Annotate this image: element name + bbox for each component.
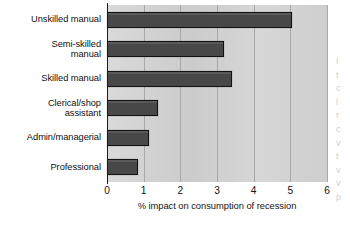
bar bbox=[107, 130, 149, 146]
tick-label-1: 1 bbox=[134, 185, 154, 197]
page-bleed-text: Itclrcvtvvp bbox=[336, 55, 350, 220]
value-axis-title: % impact on consumption of recession bbox=[107, 200, 327, 211]
category-label: Skilled manual bbox=[0, 73, 101, 84]
gridline-2 bbox=[180, 5, 181, 182]
bar-highlight bbox=[108, 13, 291, 15]
category-label: Professional bbox=[0, 162, 101, 173]
bar bbox=[107, 159, 138, 175]
bar-highlight bbox=[108, 160, 137, 162]
bleed-text-line: r bbox=[336, 109, 350, 123]
category-label-line: manual bbox=[0, 49, 101, 60]
category-label: Semi-skilledmanual bbox=[0, 39, 101, 60]
bleed-text-line: v bbox=[336, 137, 350, 151]
bleed-text-line: v bbox=[336, 164, 350, 178]
category-label: Unskilled manual bbox=[0, 14, 101, 25]
bar-highlight bbox=[108, 101, 157, 103]
bleed-text-line: t bbox=[336, 69, 350, 83]
category-label-line: Skilled manual bbox=[0, 73, 101, 84]
tick-label-2: 2 bbox=[170, 185, 190, 197]
bleed-text-line: p bbox=[336, 191, 350, 205]
bar bbox=[107, 100, 158, 116]
bleed-text-line: l bbox=[336, 96, 350, 110]
tick-label-3: 3 bbox=[207, 185, 227, 197]
bar-highlight bbox=[108, 42, 223, 44]
gridline-6 bbox=[327, 5, 328, 182]
bar bbox=[107, 71, 232, 87]
category-label-line: assistant bbox=[0, 108, 101, 119]
category-label-line: Unskilled manual bbox=[0, 14, 101, 25]
tick-label-6: 6 bbox=[317, 185, 337, 197]
category-label: Clerical/shopassistant bbox=[0, 98, 101, 119]
value-axis-line bbox=[107, 3, 108, 184]
category-label-line: Admin/managerial bbox=[0, 132, 101, 143]
category-label-line: Semi-skilled bbox=[0, 39, 101, 50]
category-label-line: Professional bbox=[0, 162, 101, 173]
bar-highlight bbox=[108, 72, 231, 74]
bar-highlight bbox=[108, 131, 148, 133]
category-axis-labels: Unskilled manualSemi-skilledmanualSkille… bbox=[0, 5, 104, 182]
category-label-line: Clerical/shop bbox=[0, 98, 101, 109]
gridline-5 bbox=[290, 5, 291, 182]
gridline-4 bbox=[254, 5, 255, 182]
bleed-text-line: I bbox=[336, 55, 350, 69]
bar-chart-figure: Unskilled manualSemi-skilledmanualSkille… bbox=[0, 0, 350, 228]
bleed-text-line: c bbox=[336, 82, 350, 96]
gridline-1 bbox=[144, 5, 145, 182]
plot-area bbox=[107, 5, 327, 182]
bleed-text-line: c bbox=[336, 123, 350, 137]
gridline-3 bbox=[217, 5, 218, 182]
bar bbox=[107, 41, 224, 57]
bar bbox=[107, 12, 292, 28]
category-label: Admin/managerial bbox=[0, 132, 101, 143]
tick-label-5: 5 bbox=[280, 185, 300, 197]
bleed-text-line: t bbox=[336, 150, 350, 164]
tick-label-4: 4 bbox=[244, 185, 264, 197]
bleed-text-line: v bbox=[336, 177, 350, 191]
tick-label-0: 0 bbox=[97, 185, 117, 197]
